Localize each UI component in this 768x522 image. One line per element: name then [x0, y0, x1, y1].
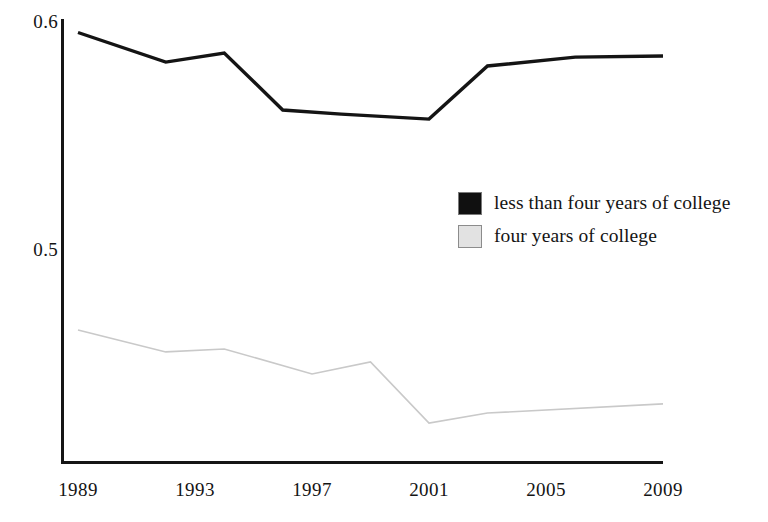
- legend-label-series-1: four years of college: [494, 225, 657, 247]
- series-line-less-than-four-years-of-college: [78, 32, 663, 119]
- legend-label-series-0: less than four years of college: [494, 192, 730, 214]
- line-chart: 0.60.5 198919931997200120052009 less tha…: [0, 0, 768, 522]
- plot-area: [0, 0, 768, 522]
- legend-swatch-icon-series-0: [458, 192, 482, 215]
- series-line-four-years-of-college: [78, 330, 663, 423]
- chart-legend: less than four years of college four yea…: [458, 188, 758, 254]
- legend-item-less-than-four-years-of-college: less than four years of college: [458, 188, 758, 218]
- legend-swatch-icon-series-1: [458, 225, 482, 248]
- legend-item-four-years-of-college: four years of college: [458, 221, 758, 251]
